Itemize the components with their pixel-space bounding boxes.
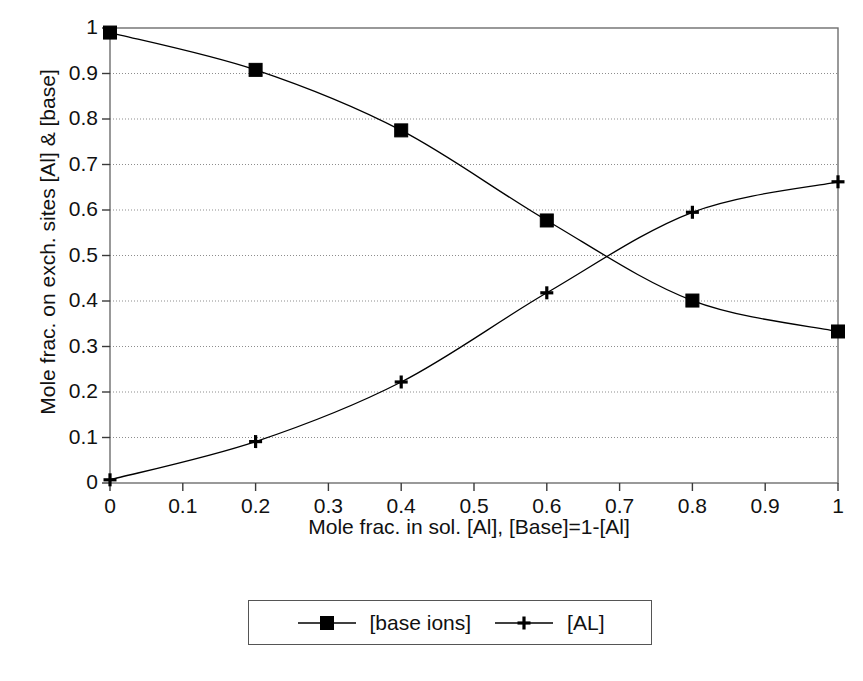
x-tick-label: 0 bbox=[75, 495, 145, 516]
marker-filled-square bbox=[320, 616, 333, 629]
x-tick-label: 0.3 bbox=[293, 495, 363, 516]
x-tick-label: 0.6 bbox=[512, 495, 582, 516]
chart-legend: [base ions][AL] bbox=[248, 600, 652, 645]
y-tick-label: 0 bbox=[34, 471, 98, 492]
legend-label: [base ions] bbox=[370, 611, 472, 635]
series-1 bbox=[104, 26, 845, 338]
y-tick-label: 0.3 bbox=[34, 335, 98, 356]
x-tick-label: 0.9 bbox=[730, 495, 800, 516]
x-tick-label: 1 bbox=[803, 495, 863, 516]
y-tick-label: 0.9 bbox=[34, 62, 98, 83]
x-tick-label: 0.5 bbox=[439, 495, 509, 516]
x-tick-label: 0.8 bbox=[657, 495, 727, 516]
y-tick-label: 0.1 bbox=[34, 426, 98, 447]
y-tick-label: 0.2 bbox=[34, 380, 98, 401]
x-tick-label: 0.2 bbox=[221, 495, 291, 516]
y-tick-label: 0.8 bbox=[34, 107, 98, 128]
marker-filled-square bbox=[686, 294, 699, 307]
y-tick-label: 0.6 bbox=[34, 198, 98, 219]
marker-filled-square bbox=[249, 63, 262, 76]
y-tick-label: 0.7 bbox=[34, 153, 98, 174]
x-tick-label: 0.7 bbox=[585, 495, 655, 516]
marker-filled-square bbox=[395, 124, 408, 137]
legend-entry-1: [base ions] bbox=[296, 611, 472, 635]
y-tick-label: 0.5 bbox=[34, 244, 98, 265]
x-tick-label: 0.4 bbox=[366, 495, 436, 516]
series-line bbox=[110, 33, 838, 332]
x-axis-title: Mole frac. in sol. [Al], [Base]=1-[Al] bbox=[169, 515, 769, 539]
marker-filled-square bbox=[104, 26, 117, 39]
y-tick-label: 1 bbox=[34, 16, 98, 37]
plot-area bbox=[0, 0, 863, 681]
marker-filled-square bbox=[540, 214, 553, 227]
legend-label: [AL] bbox=[567, 611, 604, 635]
series-line bbox=[110, 182, 838, 480]
y-tick-label: 0.4 bbox=[34, 289, 98, 310]
legend-square-icon bbox=[296, 614, 358, 632]
legend-entry-2: [AL] bbox=[493, 611, 604, 635]
chart-figure: Mole frac. on exch. sites [Al] & [base] … bbox=[0, 0, 863, 681]
series-2 bbox=[104, 175, 845, 486]
legend-plus-icon bbox=[493, 614, 555, 632]
marker-filled-square bbox=[832, 325, 845, 338]
x-tick-label: 0.1 bbox=[148, 495, 218, 516]
